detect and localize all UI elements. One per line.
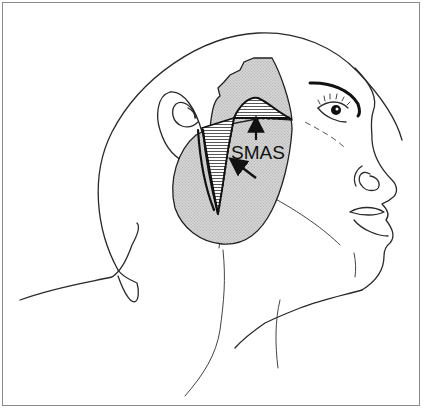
nose-ala [354,166,362,186]
smas-flap-lower [173,117,292,244]
neck-back-line [20,223,138,302]
neck-mid-line [185,250,224,396]
nostril [359,172,379,190]
upper-lip [350,208,384,216]
eye-highlight [336,108,339,111]
jawline [235,290,362,348]
lower-lip [354,220,388,236]
neck-front-line [276,300,280,368]
smas-label: SMAS [231,142,285,163]
eyelashes [318,94,350,105]
cheek-line [270,196,340,245]
ear-concha [188,108,195,118]
smas-illustration: SMAS [0,0,426,411]
incision-dashed-line [305,122,345,148]
chin-crease [354,253,356,277]
